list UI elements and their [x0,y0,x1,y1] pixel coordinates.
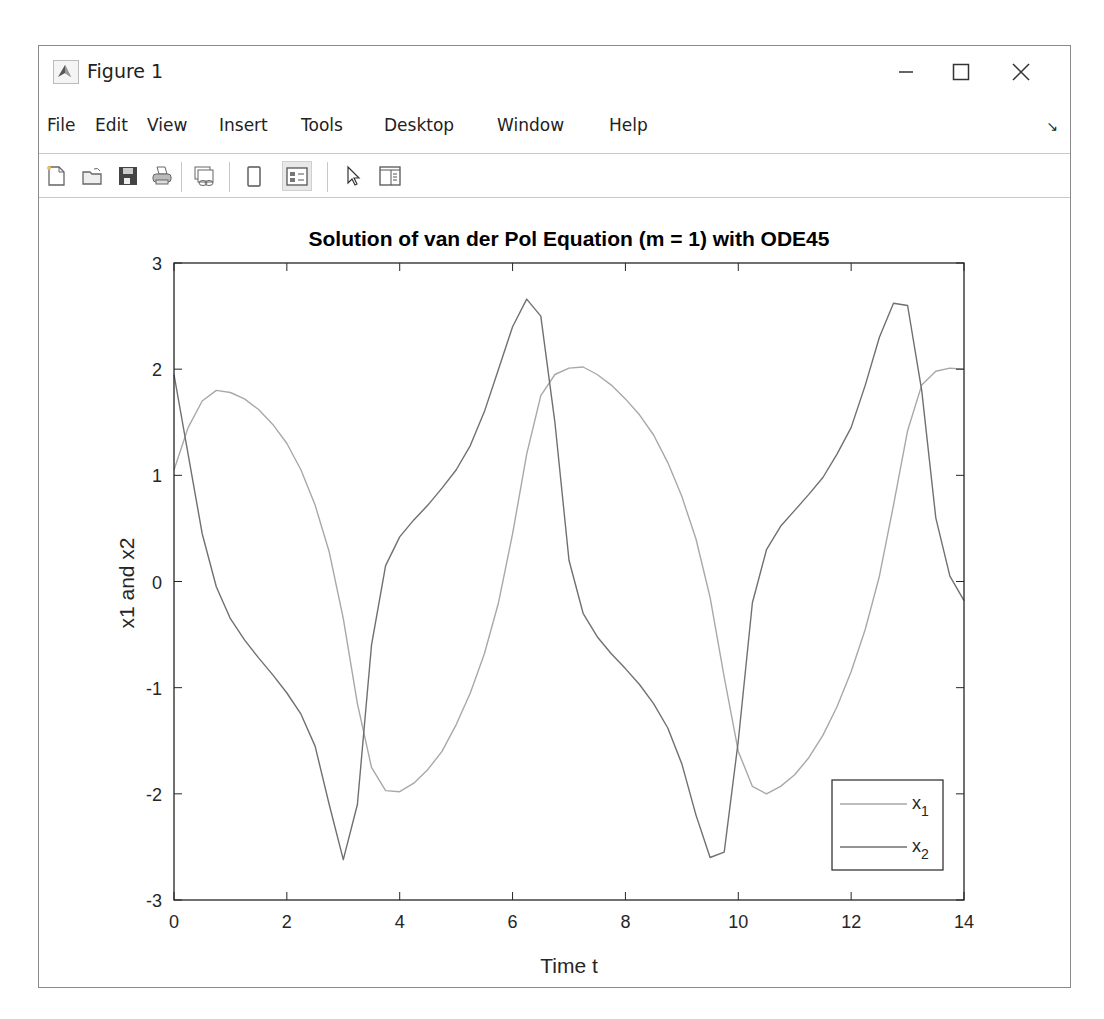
print-figure-button[interactable] [147,161,177,191]
y-tick-label: -2 [146,785,162,805]
figure-canvas: Solution of van der Pol Equation (m = 1)… [39,198,1070,987]
menu-insert[interactable]: Insert [219,115,268,135]
maximize-icon [951,62,971,82]
open-file-button[interactable] [77,161,107,191]
show-plot-tools-button[interactable] [282,161,312,191]
x-tick-label: 4 [395,912,405,932]
y-axis-label: x1 and x2 [115,537,138,628]
toolbar-separator [327,162,328,192]
minimize-button[interactable] [884,54,928,90]
legend[interactable]: x1x2 [832,780,943,870]
y-tick-label: 1 [152,466,162,486]
printer-icon [150,164,174,188]
figure-window: Figure 1 File Edit View Insert Tools Des… [38,45,1071,988]
toolbar-separator [229,162,230,192]
x-tick-label: 14 [954,912,974,932]
menu-file[interactable]: File [47,115,75,135]
new-file-icon [44,164,68,188]
y-tick-label: 2 [152,360,162,380]
x-tick-label: 0 [169,912,179,932]
link-plot-button[interactable] [189,161,219,191]
minimize-icon [896,62,916,82]
property-inspector-icon [378,164,402,188]
window-title: Figure 1 [87,60,163,82]
title-bar[interactable]: Figure 1 [39,46,1070,102]
show-plot-tools-icon [285,164,309,188]
dock-arrow-icon[interactable]: ↘ [1046,118,1058,134]
new-figure-button[interactable] [41,161,71,191]
toolbar-separator [181,162,182,192]
series-x1-line[interactable] [174,367,964,794]
x-tick-label: 10 [728,912,748,932]
x-tick-label: 8 [620,912,630,932]
y-tick-label: 0 [152,573,162,593]
cursor-arrow-icon [342,164,366,188]
y-tick-label: -1 [146,679,162,699]
edit-plot-button[interactable] [339,161,369,191]
close-button[interactable] [999,54,1043,90]
menu-tools[interactable]: Tools [301,115,343,135]
x-axis-label: Time t [540,954,598,977]
x-tick-label: 6 [508,912,518,932]
hide-plot-tools-icon [242,164,266,188]
chart-title: Solution of van der Pol Equation (m = 1)… [309,227,830,250]
menu-desktop[interactable]: Desktop [384,115,454,135]
menu-edit[interactable]: Edit [95,115,128,135]
plot-svg: Solution of van der Pol Equation (m = 1)… [39,198,1070,988]
save-icon [116,164,140,188]
x-tick-label: 2 [282,912,292,932]
folder-open-icon [80,164,104,188]
link-plot-icon [192,164,216,188]
series-x2-line[interactable] [174,299,964,860]
x-tick-label: 12 [841,912,861,932]
y-tick-label: 3 [152,254,162,274]
matlab-logo-icon [53,60,79,84]
maximize-button[interactable] [939,54,983,90]
menu-help[interactable]: Help [609,115,648,135]
hide-plot-tools-button[interactable] [239,161,269,191]
save-figure-button[interactable] [113,161,143,191]
property-inspector-button[interactable] [375,161,405,191]
menu-view[interactable]: View [147,115,187,135]
y-tick-label: -3 [146,891,162,911]
figure-toolbar [39,153,1070,198]
menu-bar: File Edit View Insert Tools Desktop Wind… [39,112,1070,142]
menu-window[interactable]: Window [497,115,564,135]
close-icon [1011,62,1031,82]
